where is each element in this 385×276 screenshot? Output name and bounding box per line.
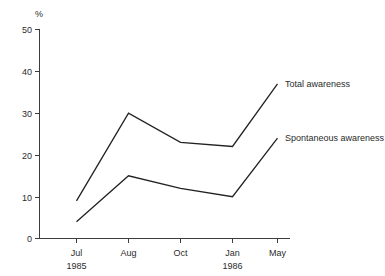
- x-tick-label-jan: Jan: [225, 248, 240, 258]
- x-tick-label-oct: Oct: [173, 248, 188, 258]
- x-tick-labels: Jul Aug Oct Jan May 1985 1986: [66, 248, 286, 271]
- x-tick-year-1985: 1985: [66, 261, 86, 271]
- y-tick-label-10: 10: [22, 193, 32, 203]
- x-tick-marks: [77, 239, 278, 244]
- y-tick-marks: [35, 30, 40, 239]
- y-tick-label-20: 20: [22, 151, 32, 161]
- series-line-total-awareness: [77, 84, 278, 201]
- y-tick-label-0: 0: [27, 234, 32, 244]
- x-tick-label-may: May: [269, 248, 287, 258]
- x-tick-label-aug: Aug: [120, 248, 136, 258]
- series-label-spontaneous-awareness: Spontaneous awareness: [285, 133, 385, 143]
- series-label-total-awareness: Total awareness: [285, 79, 351, 89]
- chart-canvas: 50 40 30 20 10 0 % Jul Aug Oct Jan May 1…: [0, 0, 385, 276]
- y-axis-unit-label: %: [35, 9, 43, 19]
- y-tick-label-40: 40: [22, 67, 32, 77]
- line-chart: 50 40 30 20 10 0 % Jul Aug Oct Jan May 1…: [0, 0, 385, 276]
- y-tick-label-50: 50: [22, 25, 32, 35]
- y-tick-label-30: 30: [22, 109, 32, 119]
- y-tick-labels: 50 40 30 20 10 0: [22, 25, 32, 244]
- x-tick-label-jul: Jul: [71, 248, 83, 258]
- x-tick-year-1986: 1986: [222, 261, 242, 271]
